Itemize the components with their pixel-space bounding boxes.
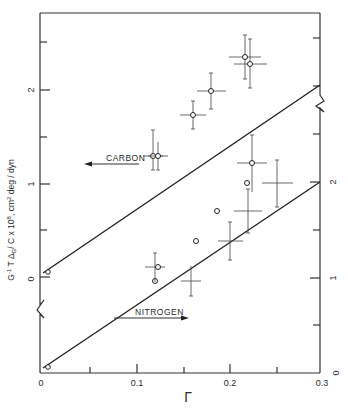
carbon-point <box>148 142 168 170</box>
right-tick-labels: 2 1 0 <box>328 179 341 375</box>
carbon-point <box>234 39 267 88</box>
left-tick-labels: 2 1 0 <box>26 87 36 281</box>
x-tick-0.2: 0.2 <box>224 378 237 388</box>
right-axis-ticks <box>310 38 320 325</box>
nitrogen-point <box>145 253 165 282</box>
y-axis-label: G-1 T ΔG/ C x 108, cm2 deg / dyn <box>6 159 17 281</box>
carbon-point <box>229 35 261 79</box>
x-tick-0: 0 <box>38 378 43 388</box>
carbon-point <box>197 73 226 109</box>
nitrogen-label: NITROGEN <box>135 307 184 317</box>
arrow-left-icon <box>84 162 92 167</box>
x-tick-0.1: 0.1 <box>131 378 144 388</box>
nitrogen-point <box>153 266 202 296</box>
nitrogen-fit-line <box>43 182 320 368</box>
nitrogen-point <box>237 135 267 192</box>
carbon-point <box>180 101 206 129</box>
left-tick-1: 1 <box>26 181 36 186</box>
left-tick-0: 0 <box>26 276 36 281</box>
x-axis-ticks <box>90 364 277 373</box>
left-tick-2: 2 <box>26 87 36 92</box>
carbon-points <box>46 35 267 274</box>
x-tick-0.3: 0.3 <box>316 378 329 388</box>
arrow-right-icon <box>181 316 189 321</box>
right-tick-2: 2 <box>328 179 338 184</box>
carbon-point <box>143 130 163 170</box>
chart-container: 0 0.1 0.2 0.3 Γ 2 1 0 2 1 0 G-1 T ΔG/ C … <box>0 0 348 411</box>
right-tick-1: 1 <box>328 275 338 280</box>
x-axis-label: Γ <box>184 389 192 405</box>
nitrogen-points <box>46 135 293 369</box>
nitrogen-annotation: NITROGEN <box>114 307 189 321</box>
x-tick-labels: 0 0.1 0.2 0.3 <box>38 378 328 388</box>
carbon-fit-line <box>43 85 320 273</box>
left-axis-ticks <box>40 42 50 277</box>
nitrogen-point <box>194 222 244 260</box>
right-tick-0: 0 <box>331 370 341 375</box>
carbon-annotation: CARBON <box>84 153 145 167</box>
plot-frame <box>37 13 324 373</box>
carbon-label: CARBON <box>106 153 145 163</box>
